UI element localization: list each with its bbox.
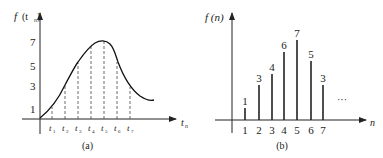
b-xtick-7: 7 <box>320 124 326 136</box>
panel-b-discrete-chart: f (n) n 1 3 4 6 7 5 3 ··· 1 2 3 4 <box>205 11 375 152</box>
b-label-3: 4 <box>269 61 275 73</box>
a-xtick-6: 6 <box>118 129 121 134</box>
b-xtick-2: 2 <box>256 124 262 136</box>
b-label-4: 6 <box>281 39 287 51</box>
a-ylabel: f <box>14 10 19 22</box>
a-ytick-7: 7 <box>30 36 36 48</box>
b-xtick-1: 1 <box>242 124 248 136</box>
a-ytick-3: 3 <box>30 80 36 92</box>
b-xtick-3: 3 <box>269 124 275 136</box>
b-xtick-6: 6 <box>308 124 314 136</box>
b-ellipsis: ··· <box>337 94 347 105</box>
a-xtick-7: 7 <box>131 129 134 134</box>
b-ylabel: f (n) <box>205 11 224 24</box>
b-xtick-5: 5 <box>294 124 300 136</box>
a-curve <box>40 41 154 118</box>
a-xtick-t: t <box>62 123 65 133</box>
a-ylabel-close: ) <box>37 11 40 23</box>
b-label-7: 3 <box>320 72 326 84</box>
a-xtick-t: t <box>88 123 91 133</box>
a-xtick-3: 3 <box>79 129 82 134</box>
a-ylabel-arg: (t <box>22 11 28 23</box>
b-xlabel: n <box>370 117 375 128</box>
a-xtick-t: t <box>75 123 78 133</box>
b-caption: (b) <box>276 140 288 152</box>
panel-a-continuous-chart: f (t n ) t n 7 5 3 1 t1 t2 t3 t4 t5 <box>14 10 188 152</box>
b-label-6: 5 <box>308 48 314 60</box>
a-xtick-labels: t1 t2 t3 t4 t5 t6 t7 <box>49 123 134 134</box>
a-sample-lines <box>52 41 130 119</box>
a-ytick-5: 5 <box>30 60 36 72</box>
a-xtick-t: t <box>101 123 104 133</box>
b-label-1: 1 <box>242 95 248 107</box>
a-caption: (a) <box>82 140 93 152</box>
b-label-2: 3 <box>256 72 262 84</box>
a-xtick-1: 1 <box>53 129 56 134</box>
a-xtick-t: t <box>49 123 52 133</box>
a-xlabel: t <box>181 117 184 128</box>
a-xtick-4: 4 <box>92 129 95 134</box>
a-xlabel-sub: n <box>185 123 188 129</box>
figure: f (t n ) t n 7 5 3 1 t1 t2 t3 t4 t5 <box>0 0 383 158</box>
a-xtick-t: t <box>114 123 117 133</box>
b-label-5: 7 <box>294 27 300 39</box>
a-ytick-1: 1 <box>30 103 36 115</box>
a-xtick-2: 2 <box>66 129 69 134</box>
a-xtick-5: 5 <box>105 129 108 134</box>
b-xtick-4: 4 <box>281 124 287 136</box>
b-xtick-labels: 1 2 3 4 5 6 7 <box>242 124 326 136</box>
a-xtick-t: t <box>127 123 130 133</box>
